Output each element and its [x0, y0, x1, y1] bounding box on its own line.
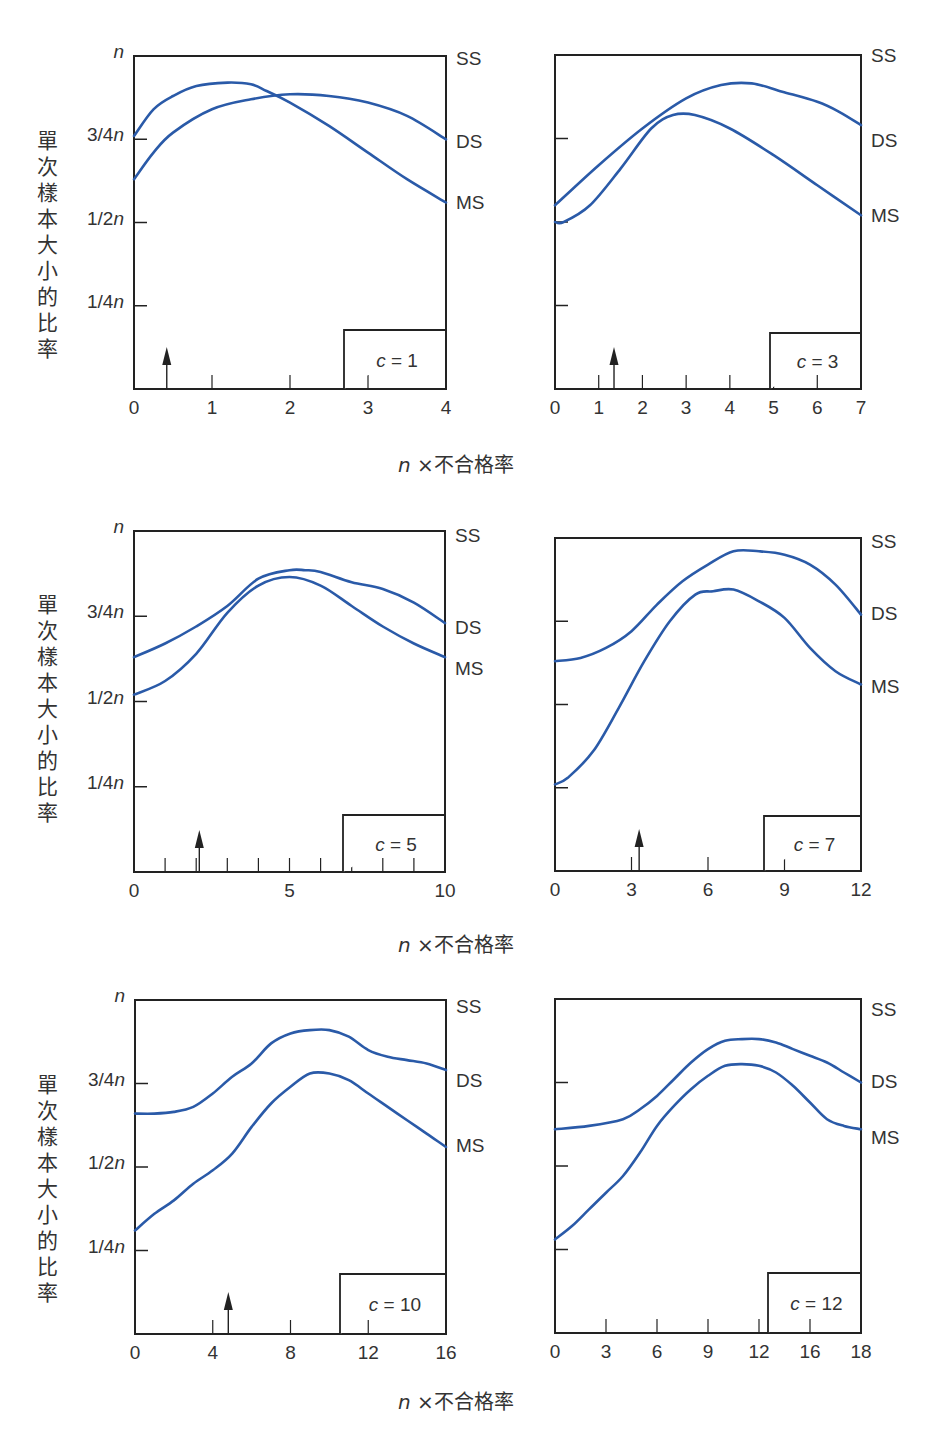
x-tick-label: 5 — [768, 397, 779, 418]
curve-ds — [555, 1039, 861, 1130]
series-label-ms: MS — [455, 658, 484, 679]
series-label-ds: DS — [871, 1071, 897, 1092]
chart-panel-3: 1/4n1/2n3/4nn0510c = 5SSDSMS — [87, 516, 484, 901]
x-tick-label: 4 — [441, 397, 452, 418]
y-tick-label: 1/4n — [87, 772, 124, 793]
x-axis-title: n ×不合格率 — [398, 449, 514, 478]
x-tick-label: 12 — [748, 1341, 769, 1362]
x-tick-label: 0 — [129, 397, 140, 418]
x-axis-title: n ×不合格率 — [398, 1386, 514, 1415]
series-label-ds: DS — [871, 130, 897, 151]
series-label-ms: MS — [871, 676, 900, 697]
x-tick-label: 16 — [799, 1341, 820, 1362]
x-tick-label: 1 — [207, 397, 218, 418]
y-tick-label: 1/4n — [88, 1236, 125, 1257]
y-axis-title: 單次樣本大小的比率 — [34, 1072, 60, 1306]
series-label-ss: SS — [455, 525, 480, 546]
chart-canvas: 1/4n1/2n3/4nn01234c = 1SSDSMS01234567c =… — [0, 0, 944, 1443]
series-label-ms: MS — [456, 192, 485, 213]
x-tick-label: 0 — [550, 397, 561, 418]
x-tick-label: 6 — [652, 1341, 663, 1362]
x-tick-label: 4 — [725, 397, 736, 418]
y-axis-title: 單次樣本大小的比率 — [34, 128, 60, 362]
arrow-up-icon — [635, 829, 644, 847]
c-value-label: c = 12 — [790, 1293, 842, 1314]
curve-ms — [135, 1072, 446, 1230]
x-tick-label: 5 — [284, 880, 295, 901]
chart-panel-6: 0369121618c = 12SSDSMS — [550, 999, 900, 1362]
x-tick-label: 16 — [435, 1342, 456, 1363]
series-label-ds: DS — [456, 131, 482, 152]
arrow-up-icon — [195, 830, 204, 848]
series-label-ss: SS — [456, 48, 481, 69]
x-tick-label: 4 — [207, 1342, 218, 1363]
x-tick-label: 2 — [637, 397, 648, 418]
x-tick-label: 12 — [850, 879, 871, 900]
series-label-ss: SS — [456, 996, 481, 1017]
series-label-ss: SS — [871, 45, 896, 66]
y-tick-label: 1/2n — [88, 1152, 125, 1173]
y-tick-label: n — [113, 41, 124, 62]
y-axis-title: 單次樣本大小的比率 — [34, 592, 60, 826]
chart-panel-5: 1/4n1/2n3/4nn0481216c = 10SSDSMS — [88, 985, 485, 1363]
arrow-up-icon — [224, 1292, 233, 1310]
series-label-ms: MS — [871, 1127, 900, 1148]
x-tick-label: 0 — [550, 1341, 561, 1362]
x-tick-label: 12 — [358, 1342, 379, 1363]
curve-ds — [135, 1029, 446, 1113]
curve-ds — [555, 550, 861, 661]
c-value-label: c = 7 — [794, 834, 836, 855]
x-tick-label: 9 — [779, 879, 790, 900]
c-value-label: c = 5 — [375, 834, 417, 855]
series-label-ds: DS — [456, 1070, 482, 1091]
c-value-label: c = 10 — [369, 1294, 421, 1315]
y-tick-label: 1/2n — [87, 208, 124, 229]
curve-ds — [555, 83, 861, 206]
arrow-up-icon — [162, 347, 171, 365]
curve-ds — [134, 94, 446, 179]
x-tick-label: 0 — [550, 879, 561, 900]
y-tick-label: 3/4n — [87, 601, 124, 622]
x-tick-label: 3 — [601, 1341, 612, 1362]
y-tick-label: n — [114, 985, 125, 1006]
x-tick-label: 18 — [850, 1341, 871, 1362]
chart-panel-2: 01234567c = 3SSDSMS — [550, 45, 900, 418]
series-label-ms: MS — [456, 1135, 485, 1156]
curve-ms — [555, 589, 861, 784]
curve-ms — [555, 113, 861, 223]
series-label-ss: SS — [871, 531, 896, 552]
curve-ds — [134, 570, 445, 658]
x-tick-label: 3 — [681, 397, 692, 418]
x-tick-label: 9 — [703, 1341, 714, 1362]
c-value-label: c = 3 — [797, 351, 839, 372]
x-tick-label: 3 — [363, 397, 374, 418]
y-tick-label: 3/4n — [87, 124, 124, 145]
x-tick-label: 0 — [129, 880, 140, 901]
arrow-up-icon — [610, 347, 619, 365]
y-tick-label: 1/2n — [87, 687, 124, 708]
y-tick-label: 3/4n — [88, 1069, 125, 1090]
curve-ms — [555, 1064, 861, 1239]
series-label-ms: MS — [871, 205, 900, 226]
x-tick-label: 6 — [812, 397, 823, 418]
series-label-ss: SS — [871, 999, 896, 1020]
x-tick-label: 3 — [626, 879, 637, 900]
x-tick-label: 0 — [130, 1342, 141, 1363]
chart-panel-4: 036912c = 7SSDSMS — [550, 531, 900, 900]
y-tick-label: 1/4n — [87, 291, 124, 312]
x-axis-title: n ×不合格率 — [398, 929, 514, 958]
series-label-ds: DS — [455, 617, 481, 638]
curve-ms — [134, 83, 446, 203]
x-tick-label: 7 — [856, 397, 867, 418]
x-tick-label: 10 — [434, 880, 455, 901]
c-value-label: c = 1 — [376, 350, 418, 371]
x-tick-label: 1 — [593, 397, 604, 418]
chart-panel-1: 1/4n1/2n3/4nn01234c = 1SSDSMS — [87, 41, 485, 418]
y-tick-label: n — [113, 516, 124, 537]
x-tick-label: 8 — [285, 1342, 296, 1363]
x-tick-label: 2 — [285, 397, 296, 418]
x-tick-label: 6 — [703, 879, 714, 900]
series-label-ds: DS — [871, 603, 897, 624]
